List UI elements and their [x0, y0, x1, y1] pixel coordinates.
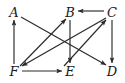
graph-node-d: D — [107, 65, 117, 78]
graph-diagram-figure: ABCFED — [0, 0, 125, 83]
edges-group — [14, 11, 112, 71]
graph-node-b: B — [65, 6, 75, 19]
graph-edge-a-to-d — [21, 17, 106, 65]
graph-node-e: E — [65, 65, 75, 78]
graph-edge-f-to-b — [20, 19, 66, 66]
graph-node-f: F — [9, 65, 18, 78]
graph-node-c: C — [107, 6, 117, 19]
graph-node-a: A — [9, 6, 18, 19]
